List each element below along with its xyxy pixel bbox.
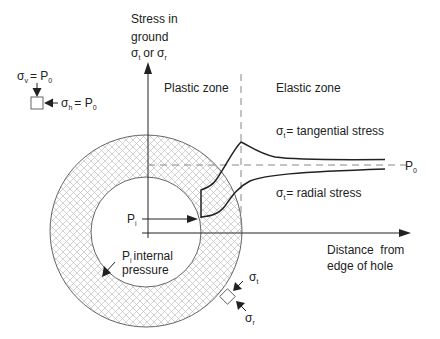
y-axis-label-line3: σtorσr [131, 46, 167, 61]
stress-diagram: Pi Piinternal pressure Stress in ground … [0, 0, 440, 339]
y-axis-label-line2: ground [131, 30, 168, 44]
horizontal-stress-label: σh= P0 [61, 96, 97, 111]
y-axis-label-line1: Stress in [131, 12, 178, 26]
vertical-stress-label: σv= P0 [17, 69, 52, 84]
internal-pressure-label: Piinternal [122, 249, 173, 264]
plastic-zone-label: Plastic zone [164, 81, 229, 95]
internal-pressure-label-line2: pressure [122, 263, 169, 277]
x-axis-label-line2: edge of hole [327, 259, 393, 273]
x-axis-label-line1: Distance from [327, 243, 404, 257]
elastic-zone-label: Elastic zone [276, 81, 341, 95]
tangential-stress-label: σt= tangential stress [276, 124, 384, 139]
stress-element-square [31, 97, 43, 109]
radial-stress-label: σt= radial stress [276, 186, 361, 201]
